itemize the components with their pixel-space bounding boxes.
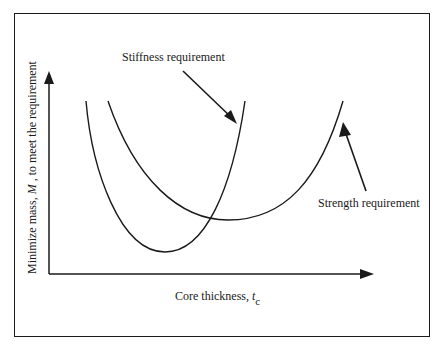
y-axis-arrow-icon: [44, 71, 54, 84]
stiffness-curve: [86, 101, 245, 252]
y-axis-label-suffix: , to meet the requirement: [25, 61, 39, 184]
x-axis-label-text: Core thickness,: [175, 289, 252, 303]
stiffness-pointer-arrow: [183, 71, 237, 124]
strength-curve: [108, 101, 343, 220]
y-axis-label-text: Minimize mass,: [25, 194, 39, 274]
y-axis-symbol: M: [25, 184, 39, 194]
x-axis: [49, 269, 374, 279]
x-axis-subscript: c: [255, 295, 260, 307]
strength-label: Strength requirement: [318, 196, 420, 211]
strength-pointer-arrow: [339, 122, 366, 191]
y-axis: [44, 71, 54, 274]
x-axis-arrow-icon: [360, 269, 374, 279]
stiffness-label: Stiffness requirement: [122, 50, 225, 65]
y-axis-label: Minimize mass, M , to meet the requireme…: [25, 61, 40, 274]
x-axis-label: Core thickness, tc: [175, 289, 260, 304]
